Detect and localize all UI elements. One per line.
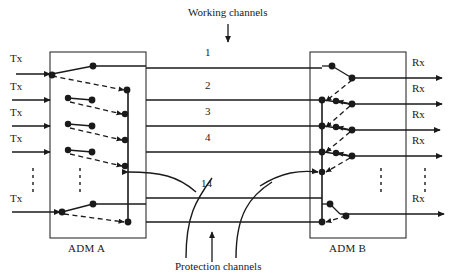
adm-a-switch-nodes: [49, 63, 132, 226]
protection-channel-curves: [128, 171, 318, 258]
adm-a-bridge-links: [52, 66, 146, 212]
protection-channels-caption: Protection channels: [175, 260, 261, 272]
channel-label-4: 4: [205, 131, 211, 143]
adm-a-protection-dashed: [52, 76, 124, 222]
tx-label-2: Tx: [10, 80, 22, 92]
adm-b-box: [310, 52, 406, 238]
rx-label-1: Rx: [412, 56, 425, 68]
rx-label-4: Rx: [412, 134, 425, 146]
tx-label-4: Tx: [10, 132, 22, 144]
rx-output-lines: [340, 78, 444, 214]
adm-b-bridge-links: [322, 66, 352, 214]
working-channel-lines: [146, 68, 322, 222]
channel-label-3: 3: [205, 105, 211, 117]
ellipsis-dots: [33, 168, 425, 196]
tx-label-1: Tx: [10, 52, 22, 64]
figure-canvas: Working channels Protection channels 1 2…: [0, 0, 456, 276]
channel-label-14: 14: [201, 177, 212, 189]
channel-label-1: 1: [205, 46, 211, 58]
tx-label-3: Tx: [10, 106, 22, 118]
adm-a-label: ADM A: [68, 242, 105, 254]
rx-label-3: Rx: [412, 108, 425, 120]
tx-label-5: Tx: [10, 192, 22, 204]
rx-label-5: Rx: [412, 192, 425, 204]
rx-label-2: Rx: [412, 82, 425, 94]
adm-b-label: ADM B: [329, 242, 366, 254]
working-channels-caption: Working channels: [188, 6, 267, 18]
diagram-svg: [0, 0, 456, 276]
channel-label-2: 2: [205, 79, 211, 91]
adm-b-switch-nodes: [319, 63, 356, 226]
